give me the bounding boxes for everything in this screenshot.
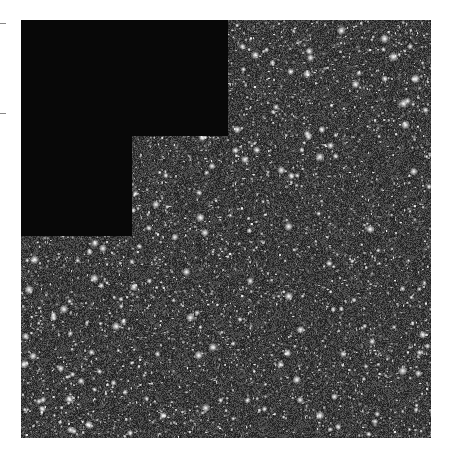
axis-tick-middle: [0, 113, 6, 114]
axis-tick-top: [0, 23, 6, 24]
star-field-image: [21, 20, 431, 438]
missing-data-mask-top: [21, 20, 228, 136]
missing-data-mask-left: [21, 135, 132, 236]
